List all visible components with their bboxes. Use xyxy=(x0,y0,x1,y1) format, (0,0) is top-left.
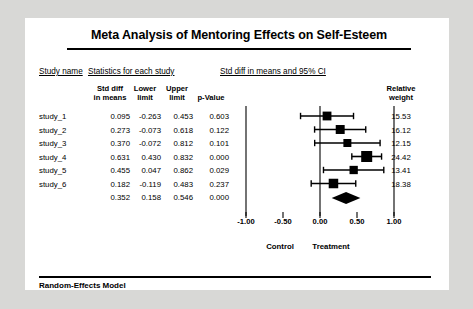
cell-relative-weight: 24.42 xyxy=(373,151,429,165)
cell-upper-limit: 0.812 xyxy=(161,137,193,151)
cell-upper-limit: 0.832 xyxy=(161,151,193,165)
cell-std-diff: 0.631 xyxy=(85,151,130,165)
summary-cell-lower-limit: 0.158 xyxy=(129,191,161,205)
axis-tick-label: 0.00 xyxy=(302,217,338,226)
table-row: study_40.6310.4300.8320.00024.42 xyxy=(25,151,449,165)
cell-relative-weight: 13.41 xyxy=(373,164,429,178)
cell-relative-weight: 15.53 xyxy=(373,110,429,124)
column-header-upper-line2: limit xyxy=(161,93,193,102)
summary-cell-upper-limit: 0.546 xyxy=(161,191,193,205)
table-row: study_20.273-0.0730.6180.12216.12 xyxy=(25,124,449,138)
cell-std-diff: 0.182 xyxy=(85,178,130,192)
cell-lower-limit: -0.263 xyxy=(129,110,161,124)
axis-label-favors-treatment: Treatment xyxy=(301,242,361,251)
summary-cell-std-diff: 0.352 xyxy=(85,191,130,205)
cell-study-name: study_1 xyxy=(39,110,89,124)
table-row: study_50.4550.0470.8620.02913.41 xyxy=(25,164,449,178)
cell-study-name: study_2 xyxy=(39,124,89,138)
column-header-lower-limit: Lower limit xyxy=(129,84,161,102)
axis-tick-label: -0.50 xyxy=(265,217,301,226)
cell-p-value: 0.603 xyxy=(193,110,229,124)
footer-divider xyxy=(39,276,431,278)
axis-tick-label: 1.00 xyxy=(376,217,412,226)
cell-p-value: 0.029 xyxy=(193,164,229,178)
cell-p-value: 0.101 xyxy=(193,137,229,151)
summary-cell-p-value: 0.000 xyxy=(193,191,229,205)
cell-lower-limit: 0.047 xyxy=(129,164,161,178)
results-table: study_10.095-0.2630.4530.60315.53study_2… xyxy=(25,110,449,205)
column-header-relative-line1: Relative xyxy=(373,84,429,93)
column-header-relative-weight: Relative weight xyxy=(373,84,429,102)
column-header-lower-line2: limit xyxy=(129,93,161,102)
cell-std-diff: 0.095 xyxy=(85,110,130,124)
report-panel: Meta Analysis of Mentoring Effects on Se… xyxy=(25,18,449,290)
column-header-std-diff-line1: Std diff xyxy=(90,84,130,93)
cell-std-diff: 0.370 xyxy=(85,137,130,151)
column-header-upper-line1: Upper xyxy=(161,84,193,93)
cell-p-value: 0.122 xyxy=(193,124,229,138)
cell-std-diff: 0.455 xyxy=(85,164,130,178)
column-header-relative-line2: weight xyxy=(373,93,429,102)
column-header-p-value: p-Value xyxy=(193,93,229,102)
cell-relative-weight: 12.15 xyxy=(373,137,429,151)
axis-tick-label: 0.50 xyxy=(339,217,375,226)
cell-study-name: study_6 xyxy=(39,178,89,192)
group-header-study-name: Study name xyxy=(39,67,83,76)
axis-tick-label: -1.00 xyxy=(228,217,264,226)
cell-study-name: study_3 xyxy=(39,137,89,151)
axis-tick-labels: -1.00-0.500.000.501.00 xyxy=(25,217,449,229)
group-header-statistics: Statistics for each study xyxy=(88,67,174,76)
cell-upper-limit: 0.618 xyxy=(161,124,193,138)
column-header-lower-line1: Lower xyxy=(129,84,161,93)
group-header-ci: Std diff in means and 95% CI xyxy=(220,67,326,76)
column-header-std-diff: Std diff in means xyxy=(90,84,130,102)
cell-upper-limit: 0.862 xyxy=(161,164,193,178)
title-divider xyxy=(67,48,411,50)
cell-upper-limit: 0.483 xyxy=(161,178,193,192)
cell-std-diff: 0.273 xyxy=(85,124,130,138)
cell-relative-weight: 18.38 xyxy=(373,178,429,192)
cell-p-value: 0.237 xyxy=(193,178,229,192)
cell-lower-limit: -0.073 xyxy=(129,124,161,138)
cell-upper-limit: 0.453 xyxy=(161,110,193,124)
column-header-upper-limit: Upper limit xyxy=(161,84,193,102)
table-row: study_60.182-0.1190.4830.23718.38 xyxy=(25,178,449,192)
column-header-std-diff-line2: in means xyxy=(90,93,130,102)
cell-relative-weight: 16.12 xyxy=(373,124,429,138)
table-row: study_10.095-0.2630.4530.60315.53 xyxy=(25,110,449,124)
cell-lower-limit: -0.119 xyxy=(129,178,161,192)
summary-row: 0.3520.1580.5460.000 xyxy=(25,191,449,205)
page-title: Meta Analysis of Mentoring Effects on Se… xyxy=(70,28,408,42)
table-row: study_30.370-0.0720.8120.10112.15 xyxy=(25,137,449,151)
cell-lower-limit: -0.072 xyxy=(129,137,161,151)
cell-lower-limit: 0.430 xyxy=(129,151,161,165)
cell-study-name: study_4 xyxy=(39,151,89,165)
model-footer: Random-Effects Model xyxy=(39,281,126,290)
cell-study-name: study_5 xyxy=(39,164,89,178)
cell-p-value: 0.000 xyxy=(193,151,229,165)
